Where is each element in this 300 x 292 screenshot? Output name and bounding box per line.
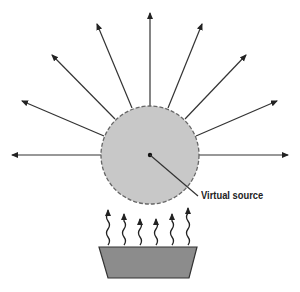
- virtual-source-diagram: [0, 0, 300, 292]
- wavy-arrow-icon: [187, 208, 190, 245]
- ray-arrow: [52, 55, 115, 119]
- ray-arrow: [97, 24, 132, 108]
- ray-arrow: [22, 101, 104, 136]
- wavy-arrow-icon: [171, 214, 174, 245]
- wavy-arrow-icon: [155, 219, 158, 245]
- ray-arrow: [168, 24, 202, 108]
- wavy-arrows: [107, 208, 190, 245]
- wavy-arrow-icon: [107, 210, 110, 245]
- ray-arrow: [196, 101, 277, 136]
- heat-source-block: [99, 247, 197, 278]
- wavy-arrow-icon: [139, 219, 142, 245]
- ray-arrow: [185, 55, 246, 119]
- virtual-source-label: Virtual source: [201, 189, 263, 201]
- wavy-arrow-icon: [123, 214, 126, 245]
